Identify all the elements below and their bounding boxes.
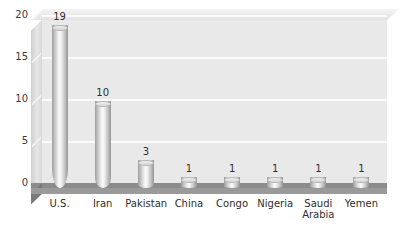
bar-value-label: 19 xyxy=(53,12,66,22)
bar-value-label: 1 xyxy=(272,164,278,174)
y-tick-label: 5 xyxy=(4,136,28,146)
plot-left-wall xyxy=(31,20,42,194)
y-tick-label: 0 xyxy=(4,178,28,188)
bar-body xyxy=(52,25,68,188)
x-tick-label: Congo xyxy=(212,198,253,209)
bar-value-label: 1 xyxy=(315,164,321,174)
x-tick-label: Saudi Arabia xyxy=(298,198,339,220)
bar-value-label: 10 xyxy=(96,88,109,98)
bar-value-label: 1 xyxy=(186,164,192,174)
bar-value-label: 1 xyxy=(358,164,364,174)
x-tick-label: Pakistan xyxy=(125,198,166,209)
bar-top-cap xyxy=(353,177,369,183)
x-tick-label: Yemen xyxy=(341,198,382,209)
x-tick-label: Iran xyxy=(82,198,123,209)
bar-value-label: 1 xyxy=(229,164,235,174)
x-tick-label: U.S. xyxy=(39,198,80,209)
plot-area: 05101520 1910311111 U.S.IranPakistanChin… xyxy=(0,0,410,236)
x-tick-label: Nigeria xyxy=(255,198,296,209)
bar-top-cap xyxy=(95,101,111,107)
bar[interactable]: 1 xyxy=(310,177,326,188)
bar-top-cap xyxy=(138,160,154,166)
x-tick-label: China xyxy=(168,198,209,209)
y-tick-label: 15 xyxy=(4,52,28,62)
bar[interactable]: 1 xyxy=(181,177,197,188)
gridline xyxy=(42,57,387,59)
bar-top-cap xyxy=(181,177,197,183)
bar[interactable]: 10 xyxy=(95,101,111,188)
bar[interactable]: 3 xyxy=(138,160,154,188)
plot-floor-front xyxy=(31,188,387,194)
bar-top-cap xyxy=(310,177,326,183)
bar-top-cap xyxy=(267,177,283,183)
bar[interactable]: 1 xyxy=(267,177,283,188)
y-tick-label: 20 xyxy=(4,10,28,20)
bar-top-cap xyxy=(224,177,240,183)
y-tick-label: 10 xyxy=(4,94,28,104)
bar-chart: 05101520 1910311111 U.S.IranPakistanChin… xyxy=(0,0,410,236)
bar-body xyxy=(95,101,111,188)
bar-value-label: 3 xyxy=(143,147,149,157)
gridline xyxy=(42,15,387,17)
bar[interactable]: 19 xyxy=(52,25,68,188)
bar[interactable]: 1 xyxy=(224,177,240,188)
bar[interactable]: 1 xyxy=(353,177,369,188)
